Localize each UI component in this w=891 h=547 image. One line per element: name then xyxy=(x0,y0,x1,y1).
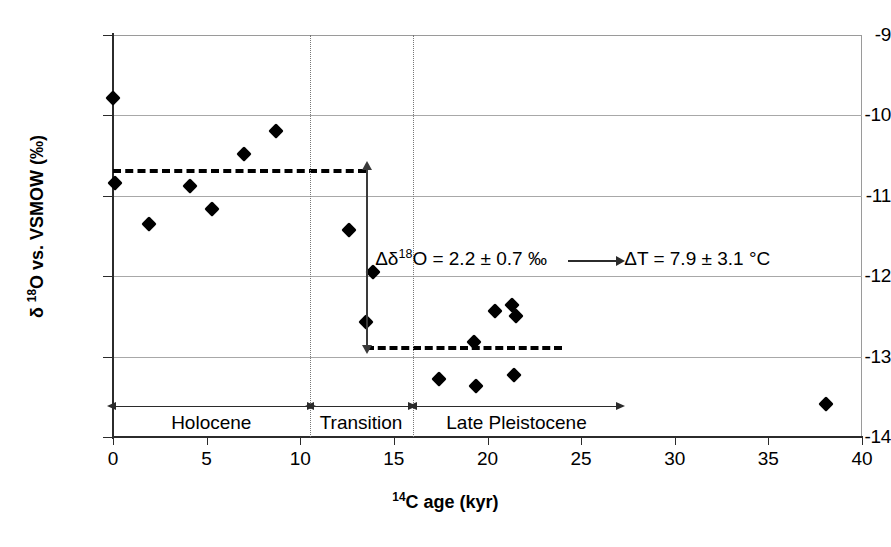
x-tick-15 xyxy=(394,437,395,445)
y-tick-label--10: -10 xyxy=(839,105,891,124)
plot-frame-right xyxy=(861,35,862,437)
gridline-y--12 xyxy=(113,276,862,277)
y-tick-label--11: -11 xyxy=(839,186,891,205)
y-tick--13 xyxy=(103,357,114,358)
x-tick-5 xyxy=(207,437,208,445)
x-tick-10 xyxy=(300,437,301,445)
x-tick-label-0: 0 xyxy=(91,449,135,469)
holocene-mean xyxy=(113,169,366,173)
plot-area xyxy=(113,35,862,437)
late-pleistocene-span-arrow xyxy=(416,406,616,407)
y-tick-label--13: -13 xyxy=(839,347,891,366)
x-tick-label-10: 10 xyxy=(278,449,322,469)
x-tick-30 xyxy=(675,437,676,445)
x-tick-label-40: 40 xyxy=(840,449,884,469)
x-tick-label-35: 35 xyxy=(746,449,790,469)
transition-span-arrow xyxy=(313,406,408,407)
x-tick-label-5: 5 xyxy=(185,449,229,469)
late-pleistocene-label: Late Pleistocene xyxy=(416,412,616,433)
x-tick-label-20: 20 xyxy=(466,449,510,469)
y-tick--10 xyxy=(103,115,114,116)
plot-frame-top xyxy=(113,35,862,36)
delta-d18o-annotation: Δδ18O = 2.2 ± 0.7 ‰ xyxy=(375,249,547,269)
x-tick-25 xyxy=(581,437,582,445)
x-tick-20 xyxy=(488,437,489,445)
transition-label: Transition xyxy=(313,412,408,433)
x-tick-label-15: 15 xyxy=(372,449,416,469)
holocene-span-arrow xyxy=(115,406,308,407)
delta-t-annotation: ΔT = 7.9 ± 3.1 °C xyxy=(624,249,770,269)
y-tick--9 xyxy=(103,35,114,36)
x-tick-35 xyxy=(768,437,769,445)
y-tick-label--14: -14 xyxy=(839,427,891,446)
x-tick-label-30: 30 xyxy=(653,449,697,469)
y-axis-title: δ 18O vs. VSMOW (‰) xyxy=(27,27,48,427)
y-tick-label--9: -9 xyxy=(839,25,891,44)
x-tick-label-25: 25 xyxy=(559,449,603,469)
gridline-y--11 xyxy=(113,196,862,197)
x-tick-40 xyxy=(862,437,863,445)
y-tick--11 xyxy=(103,196,114,197)
late-pleistocene-mean xyxy=(366,346,563,350)
x-tick-0 xyxy=(113,437,114,445)
x-axis-title: 14C age (kyr) xyxy=(0,492,891,513)
holocene-transition-divider xyxy=(310,35,311,437)
holocene-label: Holocene xyxy=(115,412,308,433)
gridline-y--13 xyxy=(113,357,862,358)
gridline-y--10 xyxy=(113,115,862,116)
annotation-connector-arrow xyxy=(568,260,617,262)
y-tick--12 xyxy=(103,276,114,277)
y-tick-label--12: -12 xyxy=(839,266,891,285)
delta-d18o-arrow xyxy=(366,169,368,346)
chart-figure: -9-10-11-12-13-14 0510152025303540 Holoc… xyxy=(0,0,891,547)
transition-pleistocene-divider xyxy=(413,35,414,437)
